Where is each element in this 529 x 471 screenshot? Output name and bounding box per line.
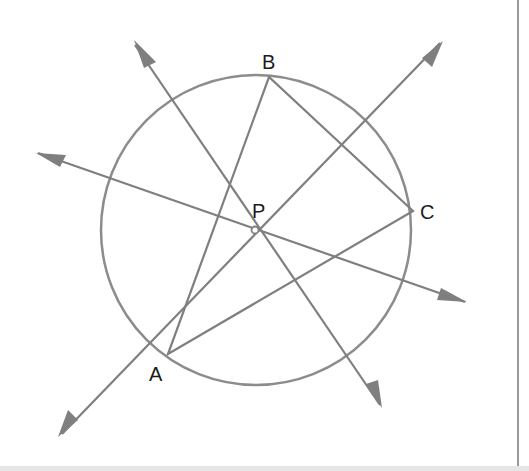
triangle-abc [168, 77, 413, 354]
arrowhead-icon [422, 41, 443, 67]
arrowhead-icon [36, 153, 66, 167]
arrowhead-icon [58, 410, 78, 437]
label-p: P [252, 200, 265, 222]
label-a: A [149, 363, 163, 385]
point-p [252, 227, 259, 234]
geometry-diagram: B P C A [0, 0, 529, 471]
label-c: C [420, 201, 434, 223]
arrowhead-icon [366, 380, 382, 408]
bisector-line-ab [62, 43, 440, 434]
arrowhead-icon [437, 288, 467, 302]
label-b: B [262, 51, 275, 73]
arrowhead-icon [134, 40, 156, 68]
